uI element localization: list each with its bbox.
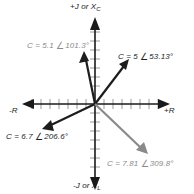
left-axis-arrowhead <box>22 99 34 109</box>
vector-arrowhead <box>79 51 89 63</box>
vector-label-angle: 309.8° <box>150 159 174 168</box>
vector-5-at-53-13-deg <box>95 59 129 104</box>
axis-label-positive-real: +R <box>164 107 175 115</box>
axis-label-negative-imaginary: -J or XL <box>73 182 101 190</box>
vector-arrowhead <box>42 120 54 131</box>
angle-symbol-icon: ∠ <box>141 159 149 169</box>
vector-7-81-at-309-8-deg <box>95 104 148 154</box>
vector-label-angle: 53.13° <box>149 52 173 61</box>
vector-label-6-7-at-206-6-deg: C = 6.7 ∠206.6° <box>6 131 68 141</box>
top-axis-arrowhead <box>90 17 100 30</box>
angle-symbol-icon: ∠ <box>57 41 65 51</box>
axis-label-positive-imaginary: +J or XC <box>70 3 101 11</box>
axis-label-bottom-text: -J or X <box>73 181 97 190</box>
vector-label-magnitude: C = 7.81 <box>107 159 138 168</box>
axis-label-top-subscript: C <box>96 6 100 12</box>
vector-label-angle: 206.6° <box>44 132 68 141</box>
angle-symbol-icon: ∠ <box>36 132 44 142</box>
vector-label-magnitude: C = 5 <box>118 52 138 61</box>
axis-label-negative-real: -R <box>9 107 18 115</box>
vector-label-angle: 101.3° <box>65 41 89 50</box>
vector-label-7-81-at-309-8-deg: C = 7.81 ∠309.8° <box>107 158 174 168</box>
angle-symbol-icon: ∠ <box>141 52 149 62</box>
vector-label-magnitude: C = 5.1 <box>27 41 54 50</box>
vector-label-magnitude: C = 6.7 <box>6 132 33 141</box>
vector-label-5-at-53-13-deg: C = 5 ∠53.13° <box>118 51 173 61</box>
axis-label-top-text: +J or X <box>70 2 96 11</box>
axis-label-bottom-subscript: L <box>97 185 100 191</box>
vector-label-5-1-at-101-3-deg: C = 5.1 ∠101.3° <box>27 40 89 50</box>
phasor-diagram-figure: +J or XC -J or XL -R +R C = 5 ∠53.13° C … <box>0 0 194 194</box>
